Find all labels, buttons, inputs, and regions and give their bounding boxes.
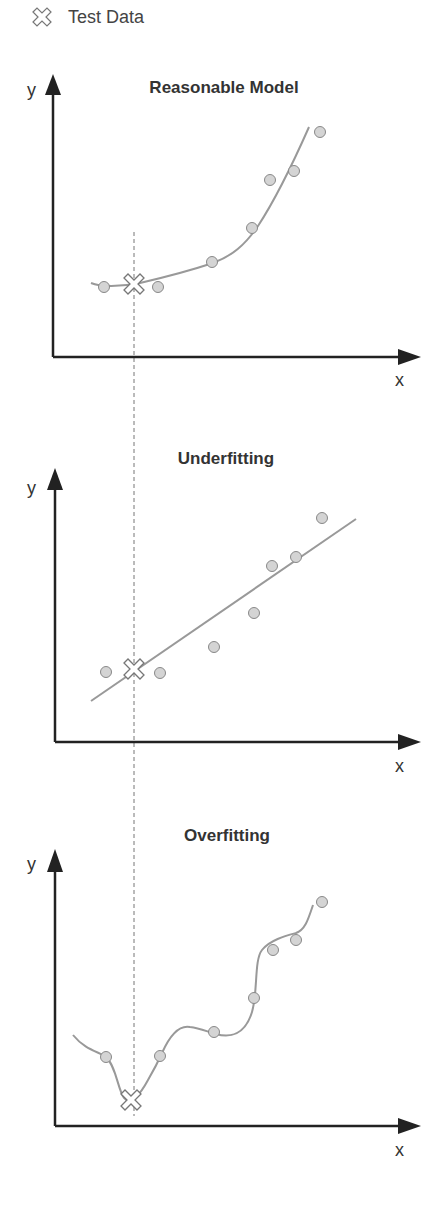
training-points [101, 513, 328, 679]
y-axis-arrow-icon [47, 468, 63, 490]
fit-curve [73, 905, 313, 1101]
y-axis-label: y [27, 854, 36, 874]
x-axis-label: x [395, 1140, 404, 1160]
x-axis-arrow-icon [398, 734, 421, 750]
panel-overfitting: Overfitting y x [27, 826, 421, 1160]
training-points [101, 897, 328, 1063]
x-axis-label: x [395, 370, 404, 390]
y-axis-label: y [27, 478, 36, 498]
y-axis-arrow-icon [47, 849, 63, 872]
panel-title: Overfitting [184, 826, 270, 845]
x-axis-label: x [395, 756, 404, 776]
x-axis-arrow-icon [398, 1118, 421, 1134]
x-axis-arrow-icon [398, 349, 421, 365]
training-points [99, 127, 326, 293]
panel-underfitting: Underfitting y x [27, 449, 421, 776]
diagram: Reasonable Model y x Underfitting y x Ov… [0, 0, 447, 1206]
panel-reasonable-model: Reasonable Model y x [27, 74, 421, 390]
panel-title: Underfitting [178, 449, 274, 468]
y-axis-label: y [27, 80, 36, 100]
y-axis-arrow-icon [45, 74, 61, 95]
test-point-icon [121, 1090, 141, 1110]
fit-curve [91, 127, 309, 286]
panel-title: Reasonable Model [149, 78, 298, 97]
